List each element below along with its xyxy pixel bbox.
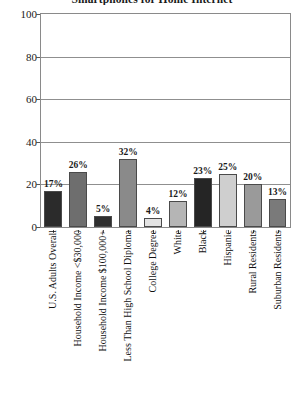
x-label-slot: Rural Residents xyxy=(240,230,265,406)
x-label-slot: Suburban Residents xyxy=(265,230,290,406)
bar[interactable] xyxy=(44,191,62,227)
x-tick-label: Suburban Residents xyxy=(273,230,283,310)
bar[interactable] xyxy=(119,159,137,227)
x-label-slot: Household Income <$30,000 xyxy=(66,230,91,406)
x-label-slot: White xyxy=(166,230,191,406)
y-tick-mark-80 xyxy=(36,57,40,58)
y-tick-mark-0 xyxy=(36,227,40,228)
x-label-slot: Hispanic xyxy=(215,230,240,406)
bar-slot: 32% xyxy=(116,14,141,227)
x-tick-label: U.S. Adults Overall xyxy=(48,230,58,309)
bar-slot: 17% xyxy=(41,14,66,227)
bar[interactable] xyxy=(194,178,212,227)
x-axis-labels: U.S. Adults OverallHousehold Income <$30… xyxy=(41,230,290,406)
y-tick-label-60: 60 xyxy=(7,93,37,105)
x-tick-label: Household Income $100,000+ xyxy=(98,230,108,351)
x-tick-label: Rural Residents xyxy=(248,230,258,294)
x-tick-label: Black xyxy=(198,230,208,253)
x-tick-label: Household Income <$30,000 xyxy=(73,230,83,346)
y-tick-label-0: 0 xyxy=(7,221,37,233)
bar-slot: 12% xyxy=(166,14,191,227)
bar-slot: 26% xyxy=(66,14,91,227)
bar-slot: 13% xyxy=(265,14,290,227)
x-label-slot: College Degree xyxy=(141,230,166,406)
x-label-slot: Black xyxy=(190,230,215,406)
bar[interactable] xyxy=(94,216,112,227)
bar[interactable] xyxy=(144,218,162,227)
y-tick-label-100: 100 xyxy=(7,8,37,20)
y-tick-label-20: 20 xyxy=(7,178,37,190)
x-label-slot: Less Than High School Diploma xyxy=(116,230,141,406)
y-tick-label-80: 80 xyxy=(7,51,37,63)
bars-group: 17%26%5%32%4%12%23%25%20%13% xyxy=(41,14,290,227)
bar[interactable] xyxy=(69,172,87,227)
y-tick-mark-40 xyxy=(36,142,40,143)
bar-slot: 25% xyxy=(215,14,240,227)
bar[interactable] xyxy=(169,201,187,227)
bar-slot: 23% xyxy=(190,14,215,227)
y-tick-label-40: 40 xyxy=(7,136,37,148)
y-tick-mark-60 xyxy=(36,99,40,100)
y-tick-mark-100 xyxy=(36,14,40,15)
bar-slot: 5% xyxy=(91,14,116,227)
bar-value-label: 13% xyxy=(260,187,296,197)
bar[interactable] xyxy=(269,199,287,227)
x-label-slot: U.S. Adults Overall xyxy=(41,230,66,406)
bar-chart: Smartphones for Home Internet 0204060801… xyxy=(0,0,304,406)
x-tick-label: Hispanic xyxy=(223,230,233,266)
x-tick-label: College Degree xyxy=(148,230,158,292)
x-label-slot: Household Income $100,000+ xyxy=(91,230,116,406)
x-tick-label: Less Than High School Diploma xyxy=(123,230,133,361)
chart-title: Smartphones for Home Internet xyxy=(0,0,304,5)
x-tick-label: White xyxy=(173,230,183,254)
